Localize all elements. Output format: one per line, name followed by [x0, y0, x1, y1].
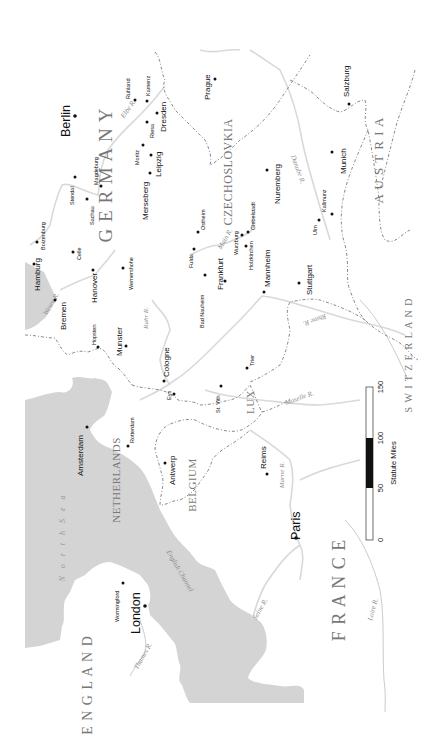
city-label-ostheim: Ostheim	[200, 209, 206, 230]
city-label-riesa: Riesa	[149, 123, 155, 138]
city-dot-reims	[266, 473, 269, 476]
city-label-ulm: Ulm	[312, 225, 318, 235]
city-label-hopsten: Hopsten	[91, 325, 97, 346]
country-label-switzerland: S W I T Z E R L A N D	[403, 298, 414, 413]
map-canvas: G E R M A N YCZECHOSLOVKIAA U S T R I AS…	[0, 0, 443, 751]
city-label-sachau: Sachau	[89, 206, 95, 225]
city-label-antwerp: Antwerp	[168, 455, 177, 485]
city-label-kallmunz: Kallmunz	[321, 189, 327, 212]
country-label-lux: LUX	[244, 390, 256, 414]
city-dot-wormingford	[122, 582, 125, 585]
city-dot-ruhland	[134, 99, 137, 102]
city-label-frankfurt: Frankfurt	[216, 257, 225, 290]
city-label-st-vith: St. Vith	[215, 395, 221, 413]
city-label-ruhland: Ruhland	[125, 79, 131, 100]
country-label-netherlands: NETHERLANDS	[110, 437, 122, 523]
city-label-mannheim: Mannheim	[263, 249, 272, 287]
city-dot-stuttgart	[298, 282, 301, 285]
city-label-trier: Trier	[249, 355, 255, 366]
city-label-merseberg: Merseberg	[141, 182, 150, 220]
scale-label-150: 150	[376, 381, 385, 394]
city-label-wurzburg: Wurzburg	[233, 231, 239, 255]
country-label-france: F R A N C E	[329, 539, 349, 642]
city-dot-merseberg	[149, 172, 152, 175]
marne-label: Marne R.	[278, 462, 286, 490]
city-dot-berlin	[73, 114, 77, 118]
city-dot-boizenburg	[36, 241, 39, 244]
city-label-nuremberg: Nuremberg	[273, 164, 282, 204]
city-label-cologne: Cologne	[162, 347, 171, 377]
city-dot-salzburg	[348, 103, 351, 106]
city-label-london: London	[129, 592, 143, 634]
city-label-dresden: Dresden	[159, 102, 168, 132]
country-label-czechoslovakia: CZECHOSLOVKIA	[221, 118, 235, 225]
city-label-hamburg: Hamburg	[33, 258, 42, 291]
city-dot-wernershohe	[122, 267, 125, 270]
city-dot-antwerp	[164, 462, 167, 465]
city-dot-cologne	[163, 380, 166, 383]
city-label-kamenz: Kamenz	[145, 76, 151, 96]
city-dot-rotterdam	[127, 445, 130, 448]
city-label-bad-nauheim: Bad Nauheim	[199, 294, 205, 328]
city-label-eys: Eys	[166, 391, 172, 400]
city-label-fulda: Fulda	[188, 253, 194, 268]
city-label-stendal: Stendal	[69, 186, 75, 205]
city-dot-stendal	[74, 176, 77, 179]
city-dot-st-vith	[220, 385, 223, 388]
city-label-stuttgart: Stuttgart	[305, 264, 314, 295]
city-label-paris: Paris	[289, 512, 303, 540]
city-label-wormingford: Wormingford	[114, 591, 120, 622]
city-dot-kamenz	[146, 100, 149, 103]
city-dot-london	[143, 604, 147, 608]
city-dot-riesa	[146, 121, 149, 124]
city-label-wernershohe: Wernershohe	[128, 257, 134, 290]
city-dot-bremen	[54, 299, 57, 302]
city-label-amsterdam: Amsterdam	[76, 435, 85, 476]
city-label-giebelstadt: Giebelstadt	[250, 202, 256, 230]
city-label-prague: Prague	[203, 74, 212, 100]
city-dot-hanover	[92, 269, 95, 272]
city-dot-munich	[331, 151, 334, 154]
city-label-salzburg: Salzburg	[342, 65, 351, 97]
city-label-bremen: Bremen	[59, 302, 68, 330]
scale-bar-black-segment	[366, 438, 373, 488]
city-dot-kallmunz	[331, 213, 334, 216]
city-label-hanover: Hanover	[90, 272, 99, 303]
city-dot-wurzburg	[241, 234, 244, 237]
city-dot-moritz	[142, 144, 145, 147]
city-dot-mannheim	[263, 291, 266, 294]
city-label-munster: Munster	[115, 327, 124, 356]
city-label-leipzig: Leipzig	[154, 152, 163, 177]
city-dot-bad-nauheim	[204, 274, 207, 277]
city-label-berlin: Berlin	[59, 105, 73, 137]
city-dot-sachau	[86, 198, 89, 201]
city-label-boizenburg: Boizenburg	[40, 222, 46, 250]
scale-title: Statute Miles	[389, 441, 398, 485]
city-label-rotterdam: Rotterdam	[129, 417, 135, 443]
city-dot-celle	[72, 251, 75, 254]
city-label-magdeburg: Magdeburg	[93, 157, 99, 185]
city-dot-eys	[173, 393, 176, 396]
city-dot-leipzig	[150, 154, 153, 157]
country-label-england: E N G L A N D	[80, 635, 95, 735]
city-dot-munster	[125, 345, 128, 348]
north-sea-label: N o r t h S e a	[58, 492, 67, 582]
city-dot-amsterdam	[86, 426, 89, 429]
scale-label-50: 50	[376, 484, 385, 492]
city-label-celle: Celle	[76, 247, 82, 260]
ruhr-label: Ruhr R.	[142, 307, 150, 330]
city-label-moritz: Moritz	[134, 150, 140, 165]
city-dot-fulda	[193, 248, 196, 251]
city-dot-nuremberg	[266, 169, 269, 172]
city-dot-prague	[214, 78, 217, 81]
city-label-munich: Munich	[339, 148, 348, 174]
city-dot-magdeburg	[100, 185, 103, 188]
country-label-belgium: BELGIUM	[186, 458, 198, 512]
city-label-holzkirchen: Holzkirchen	[248, 241, 254, 270]
country-label-austria: A U S T R I A	[371, 117, 386, 204]
city-label-reims: Reims	[259, 446, 268, 469]
city-dot-ulm	[318, 219, 321, 222]
scale-label-0: 0	[376, 538, 385, 542]
scale-label-100: 100	[376, 432, 385, 445]
